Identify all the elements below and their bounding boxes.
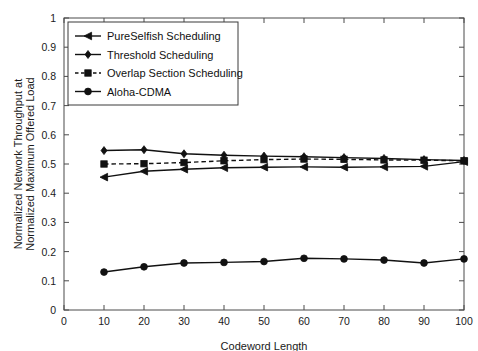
y-tick-label: 0.2 bbox=[41, 246, 56, 258]
y-tick-label: 0.7 bbox=[41, 100, 56, 112]
data-point-circle bbox=[181, 260, 188, 267]
data-point-circle bbox=[221, 259, 228, 266]
data-point-circle bbox=[301, 255, 308, 262]
data-point-square bbox=[421, 157, 427, 163]
x-tick-label: 70 bbox=[338, 315, 350, 327]
y-axis-title-line2: Normalized Maximum Offered Load bbox=[24, 77, 36, 250]
y-tick-label: 0.4 bbox=[41, 187, 56, 199]
y-tick-label: 0.8 bbox=[41, 70, 56, 82]
data-point-square bbox=[341, 156, 347, 162]
y-tick-label: 0 bbox=[50, 304, 56, 316]
data-point-circle bbox=[381, 257, 388, 264]
data-point-circle bbox=[261, 258, 268, 265]
x-tick-label: 30 bbox=[178, 315, 190, 327]
y-tick-label: 0.9 bbox=[41, 41, 56, 53]
data-point-square bbox=[141, 161, 147, 167]
x-tick-label: 0 bbox=[61, 315, 67, 327]
data-point-circle bbox=[421, 260, 428, 267]
x-tick-label: 90 bbox=[418, 315, 430, 327]
legend-label-aloha-cdma: Aloha-CDMA bbox=[107, 86, 172, 98]
x-tick-label: 50 bbox=[258, 315, 270, 327]
data-point-circle bbox=[85, 88, 92, 95]
x-tick-label: 80 bbox=[378, 315, 390, 327]
data-point-square bbox=[181, 159, 187, 165]
y-tick-label: 0.5 bbox=[41, 158, 56, 170]
line-chart: 010203040506070809010000.10.20.30.40.50.… bbox=[0, 0, 478, 351]
chart-figure: 010203040506070809010000.10.20.30.40.50.… bbox=[0, 0, 478, 351]
data-point-circle bbox=[101, 269, 108, 276]
x-tick-label: 40 bbox=[218, 315, 230, 327]
x-tick-label: 20 bbox=[138, 315, 150, 327]
data-point-square bbox=[85, 70, 91, 76]
x-axis-title: Codeword Length bbox=[221, 340, 308, 351]
x-tick-label: 60 bbox=[298, 315, 310, 327]
y-tick-label: 0.1 bbox=[41, 275, 56, 287]
data-point-square bbox=[221, 158, 227, 164]
x-tick-label: 10 bbox=[98, 315, 110, 327]
legend-label-threshold-scheduling: Threshold Scheduling bbox=[107, 49, 213, 61]
data-point-square bbox=[101, 161, 107, 167]
data-point-circle bbox=[141, 263, 148, 270]
y-tick-label: 1 bbox=[50, 12, 56, 24]
x-tick-label: 100 bbox=[455, 315, 473, 327]
data-point-square bbox=[381, 157, 387, 163]
y-tick-label: 0.3 bbox=[41, 216, 56, 228]
data-point-square bbox=[261, 156, 267, 162]
y-tick-label: 0.6 bbox=[41, 129, 56, 141]
data-point-circle bbox=[461, 256, 468, 263]
legend-label-overlap-section-scheduling: Overlap Section Scheduling bbox=[107, 67, 243, 79]
data-point-square bbox=[301, 156, 307, 162]
data-point-square bbox=[461, 158, 467, 164]
legend-label-pureselfish-scheduling: PureSelfish Scheduling bbox=[107, 30, 221, 42]
y-axis-title-line1: Normalized Network Throughput at bbox=[12, 79, 24, 249]
data-point-circle bbox=[341, 256, 348, 263]
